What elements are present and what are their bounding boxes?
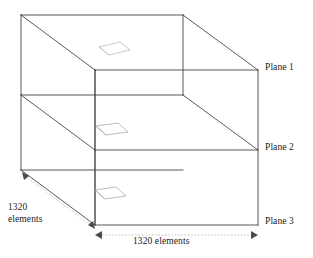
element-marker-plane-1-tick bbox=[99, 47, 109, 55]
element-marker-plane-3-shape bbox=[95, 187, 126, 199]
element-marker-plane-1 bbox=[99, 42, 130, 55]
depth-dimension-label: 1320 elements bbox=[8, 202, 60, 225]
depth-dimension-unit: elements bbox=[8, 214, 43, 224]
diagram-canvas: Plane 1 Plane 2 Plane 3 1320 elements 13… bbox=[0, 0, 313, 258]
edge-top-receding-right bbox=[183, 15, 258, 70]
element-marker-plane-1-shape bbox=[99, 42, 130, 55]
width-dimension-arrow-left bbox=[95, 231, 102, 239]
divider-plane1-receding-left bbox=[21, 95, 95, 150]
box-outer-edges bbox=[21, 15, 258, 225]
divider-plane2-receding-right bbox=[183, 95, 258, 150]
plane-3-label: Plane 3 bbox=[265, 216, 294, 227]
edge-top-receding-left bbox=[21, 15, 95, 70]
element-marker-plane-2-shape bbox=[96, 123, 128, 135]
element-marker-plane-3-tick bbox=[95, 190, 105, 199]
plane-1-label: Plane 1 bbox=[265, 62, 294, 73]
width-dimension-arrow-right bbox=[251, 231, 258, 239]
element-marker-plane-3 bbox=[95, 187, 126, 199]
plane-2-label: Plane 2 bbox=[265, 142, 294, 153]
width-dimension-label: 1320 elements bbox=[133, 236, 189, 247]
element-marker-plane-2-tick bbox=[96, 126, 106, 135]
depth-dimension-value: 1320 bbox=[8, 202, 27, 212]
element-marker-plane-2 bbox=[96, 123, 128, 135]
